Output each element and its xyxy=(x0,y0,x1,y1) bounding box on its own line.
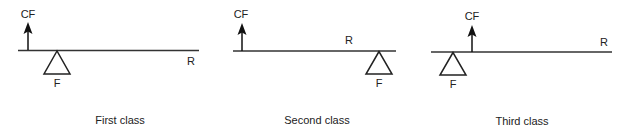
fulcrum-label: F xyxy=(450,78,457,90)
fulcrum-label: F xyxy=(376,77,383,89)
lever-first-class: CF F R First class xyxy=(18,8,199,126)
fulcrum-label: F xyxy=(54,77,61,89)
resistance-label: R xyxy=(187,55,195,67)
applied-force-arrow-icon xyxy=(24,22,33,50)
applied-force-arrow-icon xyxy=(468,25,477,52)
resistance-label: R xyxy=(345,34,353,46)
force-label: CF xyxy=(234,8,249,20)
lever-third-class: F CF R Third class xyxy=(431,10,612,127)
fulcrum-triangle-icon xyxy=(440,53,466,76)
force-label: CF xyxy=(465,10,480,22)
lever-caption: First class xyxy=(95,114,145,126)
lever-caption: Third class xyxy=(495,115,549,127)
applied-force-arrow-icon xyxy=(238,23,247,51)
lever-caption: Second class xyxy=(284,114,350,126)
resistance-label: R xyxy=(600,36,608,48)
fulcrum-triangle-icon xyxy=(366,52,392,75)
force-label: CF xyxy=(21,8,36,20)
lever-classes-diagram: CF F R First class CF R F Second class F… xyxy=(0,0,630,127)
lever-second-class: CF R F Second class xyxy=(233,8,396,126)
fulcrum-triangle-icon xyxy=(44,51,70,74)
